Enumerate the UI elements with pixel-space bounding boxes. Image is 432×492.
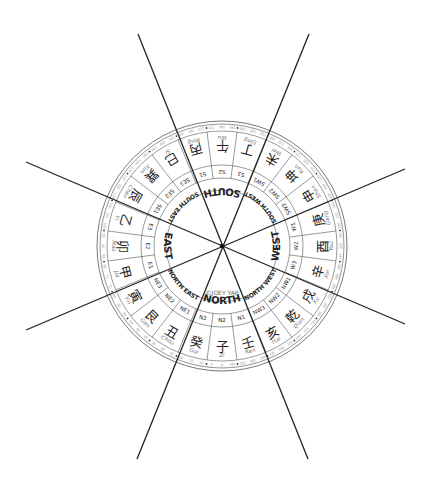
- degree-dot: [176, 135, 178, 137]
- mountain-code: W2: [293, 242, 299, 251]
- mountain-sector-n3: 癸GuiN3: [188, 314, 208, 355]
- degree-dot: [339, 261, 341, 263]
- degree-label: 230: [310, 166, 317, 173]
- direction-label-east: EAST: [162, 231, 175, 260]
- degree-tick: [310, 163, 311, 164]
- mountain-sector-ne1: 丑ChouNE1: [160, 305, 191, 347]
- mountain-sector-w2: 酉YouW2: [293, 240, 334, 253]
- mountain-code: S3: [237, 171, 246, 179]
- degree-tick: [303, 155, 304, 156]
- degree-tick: [312, 164, 313, 165]
- degree-tick: [133, 163, 134, 164]
- degree-dot: [237, 127, 239, 129]
- mountain-code: N3: [198, 314, 207, 322]
- degree-tick: [137, 158, 138, 159]
- degree-tick: [130, 325, 131, 326]
- mountain-sector-s2: 午WuS2: [216, 134, 229, 175]
- direction-label-west: WEST: [269, 230, 282, 263]
- degree-label: 315: [302, 326, 309, 333]
- mountain-pinyin: Gui: [189, 347, 200, 355]
- sector-divider: [289, 255, 336, 261]
- degree-tick: [313, 325, 314, 326]
- degree-label: 10: [199, 361, 204, 366]
- degree-label: 60: [116, 303, 121, 309]
- degree-dot: [316, 173, 318, 175]
- degree-tick: [140, 336, 141, 337]
- degree-tick: [306, 333, 307, 334]
- degree-tick: [312, 327, 313, 328]
- mountain-sector-se3: 巳SiSE3: [163, 148, 191, 187]
- mountain-pinyin: Xin: [323, 269, 331, 281]
- degree-label: 135: [134, 158, 141, 165]
- degree-tick: [137, 333, 138, 334]
- degree-dot: [339, 230, 341, 232]
- degree-tick: [309, 330, 310, 331]
- degree-label: 20: [179, 355, 184, 360]
- mountain-pinyin: Mao: [110, 240, 116, 252]
- degree-dot: [206, 127, 208, 129]
- mountain-sector-sw1: 未WeiSW1: [252, 147, 282, 188]
- degree-label: 130: [127, 166, 134, 173]
- degree-dot: [294, 340, 296, 342]
- degree-label: 250: [331, 202, 337, 209]
- degree-tick: [140, 155, 141, 156]
- degree-label: 345: [249, 358, 256, 363]
- degree-tick: [306, 158, 307, 159]
- degree-label: 340: [259, 355, 266, 361]
- mountain-sector-n2: 子ZiN2: [216, 317, 229, 358]
- mountain-sector-sw3: 申ShenSW3: [280, 184, 322, 216]
- degree-label: 50: [128, 320, 134, 326]
- degree-label: 65: [112, 294, 117, 299]
- sector-divider: [289, 231, 336, 237]
- mountain-pinyin: You: [328, 241, 334, 251]
- compass-svg: 0510152025303540455055606570758085909510…: [0, 0, 432, 492]
- degree-label: 165: [188, 128, 195, 133]
- mountain-code: N1: [237, 314, 246, 322]
- mountain-code: SE1: [153, 203, 163, 215]
- degree-dot: [176, 355, 178, 357]
- degree-dot: [111, 200, 113, 202]
- mountain-sector-ne3: 寅YinNE3: [123, 277, 163, 306]
- mountain-code: E2: [145, 243, 151, 250]
- mountain-sector-nw3: 亥HaiNW3: [252, 304, 282, 345]
- mountain-code: S2: [219, 169, 226, 175]
- degree-tick: [305, 157, 306, 158]
- degree-label: 40: [143, 334, 149, 340]
- degree-tick: [134, 330, 135, 331]
- degree-label: 25: [169, 351, 174, 356]
- degree-label: 55: [122, 311, 128, 317]
- mountain-code: E1: [147, 261, 155, 269]
- mountain-code: NE3: [153, 277, 164, 290]
- sector-divider: [108, 255, 155, 261]
- degree-tick: [139, 334, 140, 335]
- mountain-code: NE1: [179, 305, 192, 316]
- sector-divider: [108, 231, 155, 237]
- mountain-sector-e1: 甲JiaE1: [112, 261, 154, 280]
- degree-label: 225: [302, 158, 309, 165]
- degree-tick: [142, 154, 143, 155]
- mountain-code: S1: [199, 171, 207, 179]
- degree-dot: [316, 318, 318, 320]
- copyright-text: ©JOEY YAP: [206, 289, 239, 297]
- degree-label: 30: [160, 346, 166, 351]
- degree-tick: [309, 161, 310, 162]
- degree-dot: [294, 151, 296, 153]
- mountain-pinyin: Zi: [218, 352, 225, 358]
- degree-label: 70: [108, 284, 113, 289]
- degree-label: 80: [103, 264, 108, 269]
- degree-tick: [303, 336, 304, 337]
- degree-label: 105: [104, 212, 109, 219]
- direction-boundary-lines: [26, 34, 405, 459]
- mountain-sector-e2: 卯MaoE2: [110, 240, 151, 253]
- mountain-code: W3: [289, 260, 297, 271]
- degree-tick: [301, 337, 302, 338]
- mountain-sector-se1: 辰ChenSE1: [122, 184, 164, 215]
- degree-label: 75: [105, 274, 110, 279]
- sector-divider: [207, 313, 213, 360]
- degree-label: 110: [107, 202, 113, 209]
- degree-tick: [134, 161, 135, 162]
- degree-tick: [133, 329, 134, 330]
- center-point: [220, 244, 224, 248]
- degree-dot: [103, 261, 105, 263]
- degree-label: 220: [295, 151, 302, 158]
